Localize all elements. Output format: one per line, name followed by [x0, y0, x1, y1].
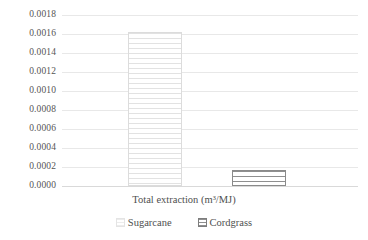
- legend-swatch-cordgrass-icon: [198, 218, 207, 227]
- chart-legend: Sugarcane Cordgrass: [0, 217, 368, 228]
- gridline: [62, 129, 358, 130]
- y-axis-tick-label: 0.0000: [4, 181, 56, 191]
- y-axis-tick-label: 0.0016: [4, 29, 56, 39]
- gridline: [62, 34, 358, 35]
- gridline: [62, 72, 358, 73]
- legend-item-sugarcane[interactable]: Sugarcane: [116, 217, 172, 228]
- y-axis-tick-label: 0.0018: [4, 10, 56, 20]
- y-axis-tick-label: 0.0006: [4, 124, 56, 134]
- gridline: [62, 53, 358, 54]
- bar-cordgrass[interactable]: [232, 170, 286, 186]
- x-axis-title: Total extraction (m³/MJ): [0, 194, 368, 205]
- legend-label-cordgrass: Cordgrass: [210, 217, 253, 228]
- y-axis-tick-label: 0.0010: [4, 86, 56, 96]
- legend-label-sugarcane: Sugarcane: [128, 217, 172, 228]
- gridline: [62, 91, 358, 92]
- gridline: [62, 110, 358, 111]
- bar-sugarcane[interactable]: [128, 32, 182, 186]
- gridline: [62, 186, 358, 187]
- gridline: [62, 148, 358, 149]
- y-axis-tick-label: 0.0002: [4, 162, 56, 172]
- gridline: [62, 167, 358, 168]
- plot-area: [62, 15, 358, 186]
- y-axis-tick-label: 0.0014: [4, 48, 56, 58]
- y-axis-tick-label: 0.0012: [4, 67, 56, 77]
- y-axis-tick-label: 0.0008: [4, 105, 56, 115]
- legend-item-cordgrass[interactable]: Cordgrass: [198, 217, 253, 228]
- bar-chart: 0.00180.00160.00140.00120.00100.00080.00…: [0, 0, 368, 240]
- gridline: [62, 15, 358, 16]
- y-axis-tick-label: 0.0004: [4, 143, 56, 153]
- legend-swatch-sugarcane-icon: [116, 218, 125, 227]
